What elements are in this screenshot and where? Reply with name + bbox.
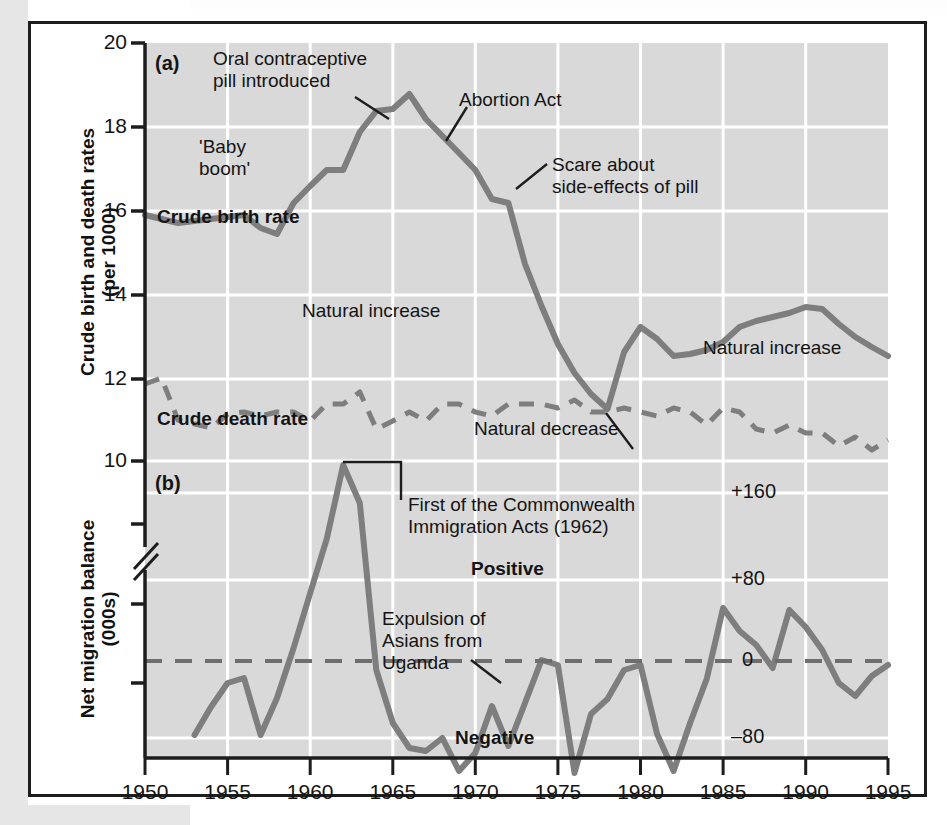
figure-frame: Crude birth and death rates (per 1000) N… [28, 21, 927, 797]
annotation-oral-contraceptive: Oral contraceptive pill introduced [213, 48, 367, 92]
y-tick-a-10: 10 [67, 448, 127, 472]
y-tick-b-plus160: +160 [731, 480, 776, 503]
panel-a-tag: (a) [155, 52, 179, 75]
label-crude-death-rate: Crude death rate [157, 408, 308, 430]
annotation-natural-decrease: Natural decrease [474, 418, 619, 440]
annotation-baby-boom: 'Baby boom' [199, 136, 250, 180]
label-crude-birth-rate: Crude birth rate [157, 206, 300, 228]
y-tick-a-18: 18 [67, 114, 127, 138]
y-tick-a-16: 16 [67, 198, 127, 222]
annotation-natural-increase-left: Natural increase [302, 300, 440, 322]
x-tick-1960: 1960 [272, 780, 348, 804]
y-tick-a-14: 14 [67, 282, 127, 306]
annotation-natural-increase-right: Natural increase [703, 337, 841, 359]
y-tick-a-20: 20 [67, 30, 127, 54]
paper-margin-bottom [0, 805, 190, 825]
paper-margin-top [190, 0, 947, 14]
x-tick-1985: 1985 [685, 780, 761, 804]
annotation-commonwealth-acts: First of the Commonwealth Immigration Ac… [408, 494, 635, 538]
y-tick-b-zero: 0 [742, 648, 753, 671]
y-tick-b-minus80: –80 [731, 725, 764, 748]
x-tick-1950: 1950 [107, 780, 183, 804]
x-tick-1995: 1995 [850, 780, 926, 804]
annotation-uganda-expulsion: Expulsion of Asians from Uganda [382, 608, 486, 674]
annotation-pill-scare: Scare about side-effects of pill [552, 154, 698, 198]
x-tick-1965: 1965 [355, 780, 431, 804]
paper-margin-left [0, 0, 28, 812]
x-tick-1990: 1990 [768, 780, 844, 804]
label-positive-zone: Positive [471, 558, 544, 580]
x-tick-1980: 1980 [603, 780, 679, 804]
annotation-abortion-act: Abortion Act [459, 89, 561, 111]
label-negative-zone: Negative [455, 727, 534, 749]
y-tick-a-12: 12 [67, 366, 127, 390]
x-tick-1975: 1975 [520, 780, 596, 804]
panel-b-tag: (b) [155, 472, 181, 495]
y-tick-b-plus80: +80 [731, 567, 765, 590]
x-tick-1955: 1955 [190, 780, 266, 804]
x-tick-1970: 1970 [437, 780, 513, 804]
